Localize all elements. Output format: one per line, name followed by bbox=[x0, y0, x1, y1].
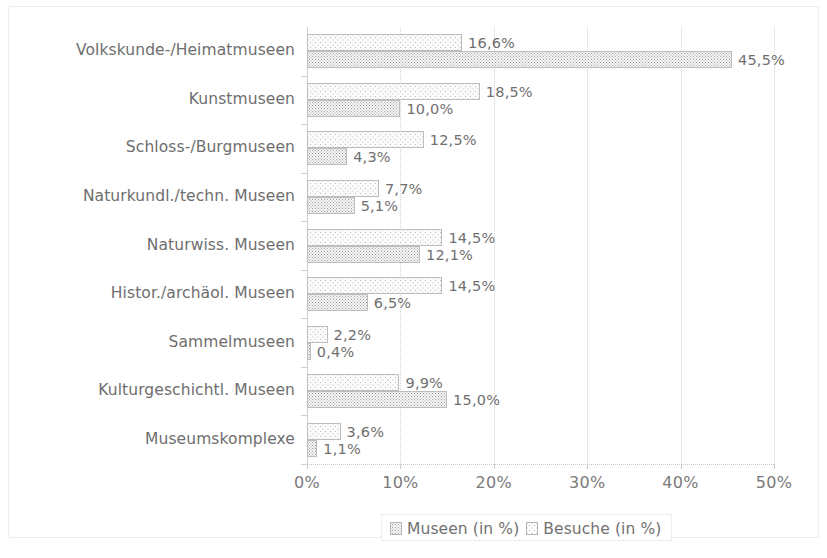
bar-museen bbox=[307, 326, 328, 343]
bar-value-label: 9,9% bbox=[405, 375, 443, 392]
bar-museen bbox=[307, 83, 480, 100]
x-axis-tick-mark bbox=[494, 464, 495, 469]
x-axis-tick-mark bbox=[307, 464, 308, 469]
y-axis-tick-mark bbox=[301, 173, 307, 174]
bar-besuche bbox=[307, 100, 400, 117]
legend-entry-museen[interactable]: Museen (in %) bbox=[390, 520, 519, 538]
bar-museen bbox=[307, 277, 442, 294]
legend-entry-besuche[interactable]: Besuche (in %) bbox=[526, 520, 661, 538]
x-axis-tick-mark bbox=[400, 464, 401, 469]
x-axis-tick-label: 30% bbox=[569, 473, 605, 492]
bar-value-label: 18,5% bbox=[486, 84, 533, 101]
x-axis-tick-label: 10% bbox=[382, 473, 418, 492]
y-axis-tick-mark bbox=[301, 464, 307, 465]
bar-value-label: 14,5% bbox=[448, 278, 495, 295]
bar-besuche bbox=[307, 197, 355, 214]
bar-value-label: 15,0% bbox=[453, 392, 500, 409]
bar-value-label: 12,1% bbox=[426, 247, 473, 264]
y-axis-category-label: Naturkundl./techn. Museen bbox=[19, 187, 295, 205]
y-axis-category-label: Histor./archäol. Museen bbox=[19, 284, 295, 302]
y-axis-tick-mark bbox=[301, 270, 307, 271]
bar-museen bbox=[307, 229, 442, 246]
y-axis-tick-mark bbox=[301, 76, 307, 77]
y-axis-category-label: Museumskomplexe bbox=[19, 430, 295, 448]
y-axis-category-label: Sammelmuseen bbox=[19, 333, 295, 351]
bar-besuche bbox=[307, 246, 420, 263]
y-axis-tick-mark bbox=[301, 415, 307, 416]
bar-value-label: 10,0% bbox=[406, 101, 453, 118]
y-axis-category-label: Kulturgeschichtl. Museen bbox=[19, 381, 295, 399]
besuche-swatch-icon bbox=[526, 522, 538, 535]
bar-museen bbox=[307, 374, 399, 391]
bar-besuche bbox=[307, 51, 732, 68]
bar-besuche bbox=[307, 343, 311, 360]
bar-museen bbox=[307, 180, 379, 197]
bar-value-label: 4,3% bbox=[353, 149, 391, 166]
y-axis-category-label: Kunstmuseen bbox=[19, 90, 295, 108]
x-axis-tick-mark bbox=[774, 464, 775, 469]
bar-besuche bbox=[307, 294, 368, 311]
x-axis-tick-mark bbox=[587, 464, 588, 469]
x-axis-tick-label: 40% bbox=[662, 473, 698, 492]
y-axis-category-label: Naturwiss. Museen bbox=[19, 236, 295, 254]
chart-frame: Volkskunde-/HeimatmuseenKunstmuseenSchlo… bbox=[8, 6, 819, 538]
bar-museen bbox=[307, 423, 341, 440]
x-axis-tick-mark bbox=[681, 464, 682, 469]
bar-value-label: 0,4% bbox=[317, 344, 355, 361]
x-axis-tick-label: 0% bbox=[294, 473, 320, 492]
gridline-30 bbox=[587, 27, 588, 464]
bar-value-label: 5,1% bbox=[361, 198, 399, 215]
bar-value-label: 6,5% bbox=[374, 295, 412, 312]
bar-value-label: 12,5% bbox=[430, 132, 477, 149]
y-axis-tick-mark bbox=[301, 318, 307, 319]
x-axis-tick-label: 50% bbox=[756, 473, 792, 492]
bar-value-label: 1,1% bbox=[323, 441, 361, 458]
bar-value-label: 14,5% bbox=[448, 230, 495, 247]
bar-value-label: 3,6% bbox=[347, 424, 385, 441]
bar-besuche bbox=[307, 148, 347, 165]
y-axis-tick-mark bbox=[301, 367, 307, 368]
y-axis-tick-mark bbox=[301, 124, 307, 125]
bar-besuche bbox=[307, 440, 317, 457]
y-axis-category-labels: Volkskunde-/HeimatmuseenKunstmuseenSchlo… bbox=[19, 27, 295, 464]
y-axis-category-label: Schloss-/Burgmuseen bbox=[19, 138, 295, 156]
bar-value-label: 2,2% bbox=[334, 327, 372, 344]
bar-museen bbox=[307, 131, 424, 148]
legend-label: Besuche (in %) bbox=[543, 520, 661, 538]
chart-legend: Museen (in %)Besuche (in %) bbox=[381, 514, 672, 541]
gridline-40 bbox=[681, 27, 682, 464]
x-axis-line bbox=[307, 464, 774, 465]
x-axis-tick-label: 20% bbox=[476, 473, 512, 492]
bar-value-label: 7,7% bbox=[385, 181, 423, 198]
x-axis-tick-labels: 0%10%20%30%40%50% bbox=[307, 473, 774, 497]
museen-swatch-icon bbox=[390, 522, 402, 535]
bar-value-label: 45,5% bbox=[738, 52, 785, 69]
bar-besuche bbox=[307, 391, 447, 408]
legend-label: Museen (in %) bbox=[407, 520, 519, 538]
y-axis-category-label: Volkskunde-/Heimatmuseen bbox=[19, 41, 295, 59]
plot-area: 16,6%45,5%18,5%10,0%12,5%4,3%7,7%5,1%14,… bbox=[307, 27, 774, 464]
bar-museen bbox=[307, 34, 462, 51]
bar-value-label: 16,6% bbox=[468, 35, 515, 52]
y-axis-tick-mark bbox=[301, 221, 307, 222]
gridline-50 bbox=[774, 27, 775, 464]
